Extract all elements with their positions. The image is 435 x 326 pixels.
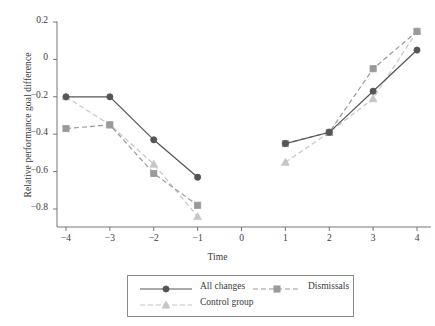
x-tick-label: −3 — [98, 233, 122, 243]
data-point-triangle — [194, 213, 202, 220]
legend-label-dismissals: Dismissals — [308, 281, 349, 291]
series-control-group — [62, 27, 421, 219]
data-point-circle — [163, 286, 169, 292]
legend-label-control-group: Control group — [200, 297, 254, 307]
series-line — [66, 97, 198, 217]
data-point-circle — [414, 47, 420, 53]
data-point-circle — [282, 140, 288, 146]
data-point-triangle — [281, 158, 289, 165]
data-point-square — [370, 66, 376, 72]
legend-label-all-changes: All changes — [200, 281, 245, 291]
series-line — [285, 31, 417, 143]
data-point-square — [414, 28, 420, 34]
x-tick-label: 0 — [230, 233, 254, 243]
series-line — [285, 50, 417, 144]
data-point-circle — [326, 129, 332, 135]
x-tick-label: 1 — [273, 233, 297, 243]
x-tick-label: 3 — [361, 233, 385, 243]
data-point-circle — [370, 88, 376, 94]
y-tick-label: −0.4 — [18, 127, 48, 137]
data-point-circle — [107, 94, 113, 100]
series-all-changes — [63, 47, 420, 180]
y-tick-label: −0.2 — [18, 90, 48, 100]
data-point-triangle — [369, 95, 377, 102]
chart-legend: All changesDismissalsControl group — [127, 275, 354, 317]
x-tick-label: 2 — [317, 233, 341, 243]
series-line — [66, 97, 198, 177]
data-point-circle — [151, 137, 157, 143]
y-tick-label: 0 — [18, 52, 48, 62]
x-tick-label: −4 — [54, 233, 78, 243]
data-point-square — [63, 125, 69, 131]
data-point-square — [151, 170, 157, 176]
data-point-square — [107, 122, 113, 128]
x-tick-label: −2 — [142, 233, 166, 243]
chart-figure: Relative performance goal difference Tim… — [0, 0, 435, 326]
y-tick-label: 0.2 — [18, 15, 48, 25]
data-point-circle — [63, 94, 69, 100]
data-point-circle — [195, 174, 201, 180]
data-point-square — [195, 202, 201, 208]
series-line — [285, 31, 417, 162]
x-tick-label: 4 — [405, 233, 429, 243]
x-tick-label: −1 — [186, 233, 210, 243]
data-point-square — [274, 286, 280, 292]
y-tick-label: −0.6 — [18, 165, 48, 175]
series-dismissals — [63, 28, 420, 208]
y-tick-label: −0.8 — [18, 202, 48, 212]
